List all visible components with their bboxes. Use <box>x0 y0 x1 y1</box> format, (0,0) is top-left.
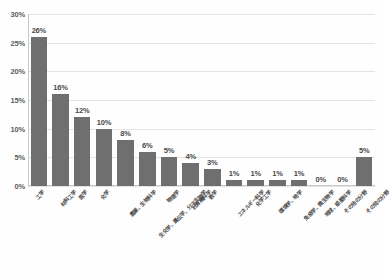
bar-group[interactable]: 1% <box>223 14 245 186</box>
x-axis-label-slot: その他の分野 <box>332 188 354 272</box>
bar[interactable] <box>247 180 263 186</box>
bar-value-label: 3% <box>207 158 217 167</box>
bar-value-label: 10% <box>97 118 111 127</box>
bar[interactable] <box>226 180 242 186</box>
bar-value-label: 5% <box>164 146 174 155</box>
bar[interactable] <box>31 37 47 186</box>
x-axis-label-slot: その他の分野 <box>353 188 375 272</box>
bar-group[interactable]: 1% <box>267 14 289 186</box>
bar-value-label: 1% <box>272 169 282 178</box>
x-axis-label-slot: 工学 <box>28 188 50 272</box>
x-axis-category-label: 医学 <box>78 190 89 201</box>
y-axis-tick-label: 10% <box>11 124 25 133</box>
bar-group[interactable]: 16% <box>50 14 72 186</box>
bar-value-label: 1% <box>250 169 260 178</box>
bar[interactable] <box>182 163 198 186</box>
bar-value-label: 4% <box>185 152 195 161</box>
x-axis-label-slot: 医学 <box>71 188 93 272</box>
bar-value-label: 5% <box>359 146 369 155</box>
x-axis-label-slot: 化学 <box>93 188 115 272</box>
bar-group[interactable]: 26% <box>28 14 50 186</box>
bar-group[interactable]: 0% <box>332 14 354 186</box>
x-axis-label-slot: 環境学、地学 <box>267 188 289 272</box>
y-axis-tick-label: 25% <box>11 38 25 47</box>
bar[interactable] <box>52 94 68 186</box>
bar[interactable] <box>117 140 133 186</box>
bar-group[interactable]: 8% <box>115 14 137 186</box>
x-axis-label-slot: エネルギー科学 <box>223 188 245 272</box>
x-axis-label-slot: 化学工学 <box>245 188 267 272</box>
x-axis-category-label: 物理学 <box>166 190 180 204</box>
y-axis-tick-label: 0% <box>15 182 25 191</box>
bar-group[interactable]: 0% <box>310 14 332 186</box>
gridline <box>28 186 375 187</box>
bar-group[interactable]: 12% <box>71 14 93 186</box>
bar-group[interactable]: 1% <box>245 14 267 186</box>
bar[interactable] <box>356 157 372 186</box>
bar[interactable] <box>269 180 285 186</box>
bar-group[interactable]: 3% <box>202 14 224 186</box>
x-axis-label-slot: 物理学 <box>158 188 180 272</box>
x-axis-category-label: その他の分野 <box>366 190 390 215</box>
bar[interactable] <box>291 180 307 186</box>
bar[interactable] <box>334 185 350 186</box>
bar[interactable] <box>139 152 155 186</box>
y-axis-tick-label: 15% <box>11 96 25 105</box>
bar-value-label: 0% <box>337 175 347 184</box>
y-axis-tick-label: 20% <box>11 67 25 76</box>
x-axis-label-slot: 免疫学、微生物学 <box>288 188 310 272</box>
y-axis-tick-label: 5% <box>15 153 25 162</box>
bar-value-label: 16% <box>53 83 67 92</box>
bar-group[interactable]: 1% <box>288 14 310 186</box>
bar[interactable] <box>313 185 329 186</box>
bar[interactable] <box>204 169 220 186</box>
x-axis-category-label: 工学 <box>35 190 46 201</box>
x-axis-label-slot: 地球、惑星科学 <box>310 188 332 272</box>
x-axis-label-slot: 数学 <box>202 188 224 272</box>
x-axis-category-label: 数学 <box>208 190 219 201</box>
bar[interactable] <box>74 117 90 186</box>
x-axis-category-label: 化学 <box>100 190 111 201</box>
bar[interactable] <box>96 129 112 186</box>
bar-value-label: 12% <box>75 106 89 115</box>
bar-group[interactable]: 10% <box>93 14 115 186</box>
plot-area: 0%5%10%15%20%25%30% 26%16%12%10%8%6%5%4%… <box>28 14 375 186</box>
bar-series: 26%16%12%10%8%6%5%4%3%1%1%1%1%0%0%5% <box>28 14 375 186</box>
bar[interactable] <box>161 157 177 186</box>
bar-value-label: 6% <box>142 141 152 150</box>
bar-group[interactable]: 5% <box>158 14 180 186</box>
x-axis-label-slot: 計算機科学 <box>180 188 202 272</box>
bar-group[interactable]: 5% <box>353 14 375 186</box>
x-axis-label-slot: 生化学、遺伝学、分子生物学 <box>136 188 158 272</box>
x-axis-label-slot: 材料工学 <box>50 188 72 272</box>
y-axis-tick-label: 30% <box>11 10 25 19</box>
bar-group[interactable]: 6% <box>136 14 158 186</box>
x-axis-labels: 工学材料工学医学化学農業、生物科学生化学、遺伝学、分子生物学物理学計算機科学数学… <box>28 188 375 272</box>
bar-group[interactable]: 4% <box>180 14 202 186</box>
bar-value-label: 26% <box>32 26 46 35</box>
bar-value-label: 1% <box>294 169 304 178</box>
bar-value-label: 8% <box>120 129 130 138</box>
bar-value-label: 0% <box>316 175 326 184</box>
x-axis-label-slot: 農業、生物科学 <box>115 188 137 272</box>
bar-value-label: 1% <box>229 169 239 178</box>
